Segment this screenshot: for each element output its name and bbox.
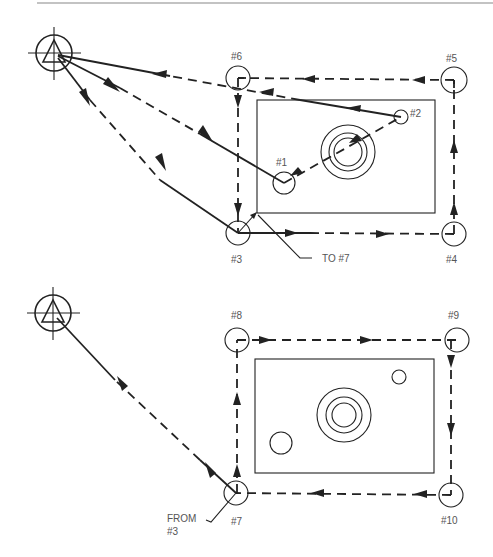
- center-bore: [317, 388, 371, 442]
- arrow-icon: [234, 203, 242, 216]
- arrow-icon: [450, 140, 458, 153]
- arrow-icon: [259, 88, 274, 96]
- arrow-icon: [233, 392, 241, 405]
- arrow-icon: [450, 202, 458, 215]
- label-to-7: TO #7: [322, 253, 350, 264]
- center-bore: [321, 125, 375, 179]
- label-point-10: #10: [441, 515, 458, 526]
- label-from-3: #3: [167, 526, 179, 537]
- arrow-icon: [376, 230, 389, 238]
- arrow-icon: [290, 167, 303, 176]
- arrow-icon: [346, 105, 361, 112]
- small-hole: [392, 370, 406, 384]
- label-point-9: #9: [448, 310, 460, 321]
- arrow-icon: [234, 95, 242, 108]
- label-point-1: #1: [276, 157, 288, 168]
- arrow-icon: [360, 336, 373, 344]
- label-point-5: #5: [446, 53, 458, 64]
- arrow-icon: [198, 125, 213, 142]
- arrow-icon: [311, 489, 324, 497]
- tool-path-diagram: #1 #2 #3 #4 #5 #6 TO #7: [0, 0, 493, 557]
- arrow-icon: [447, 355, 455, 368]
- home-position-icon: [27, 287, 80, 340]
- upper-view: #1 #2 #3 #4 #5 #6 TO #7: [28, 27, 467, 265]
- label-point-3: #3: [231, 254, 243, 265]
- arrow-icon: [103, 77, 120, 92]
- workpiece-outline: [255, 359, 434, 473]
- home-position-icon: [28, 27, 81, 80]
- label-point-6: #6: [231, 51, 243, 62]
- arrow-icon: [412, 76, 425, 84]
- label-point-7: #7: [231, 516, 243, 527]
- label-from: FROM: [167, 513, 196, 524]
- arrow-icon: [414, 490, 427, 498]
- arrow-icon: [259, 336, 272, 344]
- arrow-icon: [233, 464, 241, 477]
- label-point-4: #4: [446, 254, 458, 265]
- lower-view: #7 #8 #9 #10 FROM #3: [27, 287, 469, 537]
- label-point-8: #8: [231, 310, 243, 321]
- large-hole: [270, 432, 292, 454]
- arrow-icon: [447, 423, 455, 436]
- arrow-icon: [152, 70, 167, 78]
- arrow-icon: [285, 229, 298, 237]
- arrow-icon: [155, 153, 166, 171]
- arrow-icon: [205, 462, 216, 478]
- arrow-icon: [302, 75, 315, 83]
- label-point-2: #2: [410, 108, 422, 119]
